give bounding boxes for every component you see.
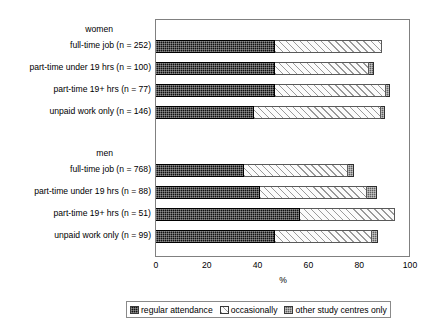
legend-label-other-study-centres-only: other study centres only (295, 305, 386, 315)
legend-swatch-occasionally-icon (220, 306, 229, 314)
category-label-women-full-time-job: full-time job (n = 252) (70, 40, 151, 51)
group-heading-men: men (96, 148, 113, 159)
x-axis-title: % (156, 275, 410, 286)
bar-segment-occasional (275, 40, 382, 53)
category-label-women-part-time-under-19: part-time under 19 hrs (n = 100) (29, 62, 151, 73)
bar-segment-other (372, 230, 378, 243)
category-label-women-part-time-19-plus: part-time 19+ hrs (n = 77) (54, 84, 151, 95)
bar-segment-regular (156, 40, 275, 53)
bar-segment-other (348, 164, 354, 177)
bar-segment-regular (156, 186, 260, 199)
bar-segment-regular (156, 208, 300, 221)
legend-item-other-study-centres-only[interactable]: other study centres only (284, 305, 386, 315)
bar-segment-occasional (275, 62, 369, 75)
x-tick-label-40: 40 (253, 260, 263, 271)
bar-segment-regular (156, 164, 244, 177)
bar-segment-other (386, 84, 390, 97)
x-tick-label-100: 100 (403, 260, 417, 271)
bars-layer (156, 19, 410, 257)
legend-swatch-regular-attendance-icon (130, 306, 139, 314)
bar-segment-occasional (260, 186, 367, 199)
legend-swatch-other-study-centres-icon (284, 306, 293, 314)
x-tick-label-20: 20 (202, 260, 212, 271)
category-label-men-unpaid-work-only: unpaid work only (n = 99) (54, 230, 151, 241)
legend-item-occasionally[interactable]: occasionally (220, 305, 278, 315)
x-tick-label-80: 80 (354, 260, 364, 271)
bar-segment-regular (156, 230, 275, 243)
x-axis-tick-labels: 020406080100 (0, 260, 439, 274)
bar-segment-occasional (275, 230, 372, 243)
bar-segment-other (381, 106, 385, 119)
bar-segment-regular (156, 106, 254, 119)
stacked-bar-chart: women full-time job (n = 252) part-time … (0, 0, 439, 326)
legend-label-occasionally: occasionally (231, 305, 278, 315)
x-tick-label-60: 60 (304, 260, 314, 271)
bar-segment-occasional (300, 208, 395, 221)
bar-segment-other (369, 62, 374, 75)
chart-legend: regular attendance occasionally other st… (126, 301, 391, 318)
group-heading-women: women (85, 24, 113, 35)
legend-label-regular-attendance: regular attendance (141, 305, 213, 315)
category-label-men-part-time-under-19: part-time under 19 hrs (n = 88) (34, 186, 151, 197)
bar-segment-occasional (244, 164, 348, 177)
bar-segment-occasional (275, 84, 385, 97)
bar-segment-occasional (254, 106, 381, 119)
category-label-men-part-time-19-plus: part-time 19+ hrs (n = 51) (54, 208, 151, 219)
bar-segment-regular (156, 84, 275, 97)
legend-item-regular-attendance[interactable]: regular attendance (130, 305, 213, 315)
category-label-women-unpaid-work-only: unpaid work only (n = 146) (49, 106, 151, 117)
category-labels-column: women full-time job (n = 252) part-time … (0, 19, 153, 257)
bar-segment-regular (156, 62, 275, 75)
x-tick-label-0: 0 (154, 260, 159, 271)
category-label-men-full-time-job: full-time job (n = 768) (70, 164, 151, 175)
bar-segment-other (367, 186, 377, 199)
